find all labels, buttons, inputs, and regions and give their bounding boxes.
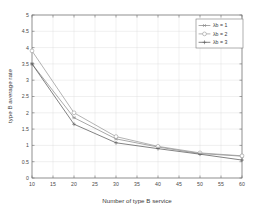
x-tick-label: 25 bbox=[92, 181, 98, 187]
x-tick-label: 60 bbox=[239, 181, 245, 187]
data-marker-circle bbox=[114, 135, 118, 139]
chart-legend: λb = 1λb = 2λb = 3 bbox=[196, 19, 243, 48]
chart-figure: 1015202530354045505560 00.511.522.533.54… bbox=[0, 0, 259, 212]
data-marker-circle bbox=[72, 111, 76, 115]
legend-label: λb = 3 bbox=[213, 39, 227, 45]
legend-label: λb = 2 bbox=[213, 31, 227, 37]
x-tick-label: 50 bbox=[197, 181, 203, 187]
x-tick-labels: 1015202530354045505560 bbox=[29, 181, 245, 187]
y-tick-label: 1.5 bbox=[22, 126, 29, 132]
y-tick-label: 4.5 bbox=[22, 28, 29, 34]
y-tick-label: 2.5 bbox=[22, 93, 29, 99]
x-tick-label: 10 bbox=[29, 181, 35, 187]
y-axis-title: type B average rate bbox=[6, 68, 13, 123]
x-tick-label: 15 bbox=[50, 181, 56, 187]
x-tick-label: 40 bbox=[155, 181, 161, 187]
y-tick-labels: 00.511.522.533.544.55 bbox=[22, 12, 29, 181]
x-tick-label: 45 bbox=[176, 181, 182, 187]
x-axis-title: Number of type B service bbox=[102, 197, 172, 204]
y-tick-label: 3.5 bbox=[22, 61, 29, 67]
data-marker-plus bbox=[114, 141, 118, 145]
y-tick-label: 3 bbox=[26, 77, 29, 83]
data-marker-circle bbox=[30, 49, 34, 53]
y-tick-label: 0 bbox=[26, 175, 29, 181]
x-tick-label: 30 bbox=[113, 181, 119, 187]
x-tick-label: 55 bbox=[218, 181, 224, 187]
y-tick-label: 5 bbox=[26, 12, 29, 18]
x-tick-label: 20 bbox=[71, 181, 77, 187]
data-marker-circle bbox=[240, 154, 244, 158]
x-tick-label: 35 bbox=[134, 181, 140, 187]
legend-label: λb = 1 bbox=[213, 22, 227, 28]
y-tick-label: 4 bbox=[26, 45, 29, 51]
y-tick-label: 0.5 bbox=[22, 159, 29, 165]
data-marker-circle bbox=[203, 32, 207, 36]
y-tick-label: 1 bbox=[26, 142, 29, 148]
line-chart: 1015202530354045505560 00.511.522.533.54… bbox=[0, 0, 259, 212]
y-tick-label: 2 bbox=[26, 110, 29, 116]
